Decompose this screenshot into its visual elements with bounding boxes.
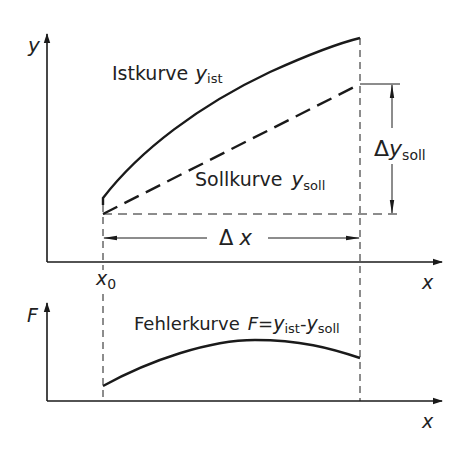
upper-plot: y x x0 Istkurveyist Sollkurveysoll [27, 33, 442, 401]
x-axis-label: x [421, 271, 434, 293]
lower-plot: F x FehlerkurveF=yist-ysoll [27, 303, 442, 432]
error-curve-label: FehlerkurveF=yist-ysoll [134, 312, 340, 336]
error-curve [103, 340, 360, 386]
f-axis-label: F [27, 304, 39, 326]
y-axis-label: y [27, 33, 41, 57]
delta-x-label: Δx [219, 226, 252, 250]
soll-curve [103, 84, 360, 214]
soll-curve-label: Sollkurveysoll [195, 167, 325, 193]
diagram-canvas: y x x0 Istkurveyist Sollkurveysoll [0, 0, 470, 453]
lower-x-axis-label: x [421, 410, 434, 432]
delta-y-label: Δysoll [374, 136, 426, 163]
ist-curve-label: Istkurveyist [112, 61, 223, 86]
x0-label: x0 [95, 267, 116, 292]
